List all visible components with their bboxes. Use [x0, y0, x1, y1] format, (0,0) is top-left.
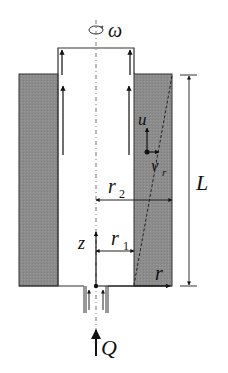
r-axis: r [96, 262, 170, 286]
z-label: z [77, 233, 85, 253]
u-label: u [138, 110, 147, 129]
Q-label: Q [101, 335, 117, 360]
v-subscript: r [162, 166, 167, 178]
left-outer-wall [19, 74, 58, 286]
inflow-Q-arrow: Q [96, 330, 117, 360]
rotation-indicator: ω [89, 19, 122, 41]
omega-label: ω [108, 19, 122, 41]
v-label: v [151, 156, 159, 175]
r2-label: r [108, 175, 116, 197]
r1-label: r [111, 227, 119, 249]
r-axis-label: r [155, 262, 163, 284]
length-L-dimension: L [180, 75, 208, 286]
z-axis: z [77, 232, 96, 286]
L-label: L [195, 170, 208, 195]
r2-subscript: 2 [119, 187, 125, 201]
radius-r1-dimension: r 1 [96, 227, 134, 253]
r1-subscript: 1 [123, 239, 129, 253]
origin-point [94, 284, 98, 288]
annular-flow-diagram: ω u v r r 2 r 1 z r [0, 0, 228, 373]
